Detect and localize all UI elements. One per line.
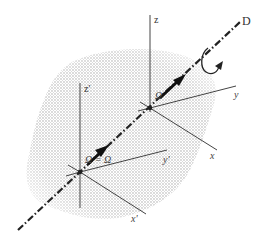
axis-d-label: D — [242, 14, 251, 28]
z-label: z — [154, 14, 159, 25]
y-prime-label: y' — [162, 154, 170, 165]
origin-moving — [78, 170, 83, 175]
z-prime-label: z' — [84, 83, 90, 94]
y-label: y — [233, 89, 239, 100]
omega-upper-label: Ω — [155, 90, 162, 101]
omega-lower-label: Ω = Ω — [85, 154, 111, 165]
x-label: x — [209, 150, 215, 161]
origin-fixed — [148, 106, 153, 111]
x-prime-label: x' — [130, 213, 138, 224]
rigid-body-rotation-diagram: z y x z' y' x' D Ω Ω = Ω — [0, 0, 266, 246]
